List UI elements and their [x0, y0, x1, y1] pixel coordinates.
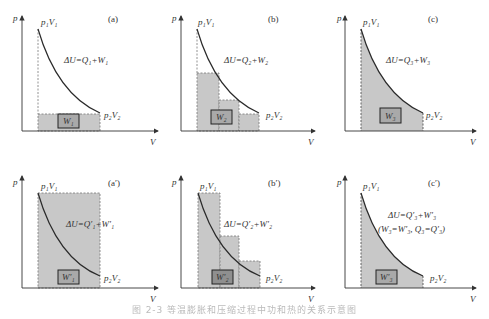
start-point-label: p₁V₁ — [199, 181, 216, 191]
start-point-label: p₁V₁ — [197, 17, 214, 27]
end-point-label: p₂V₂ — [425, 110, 442, 120]
start-point-label: p₁V₁ — [40, 181, 57, 191]
work-label: W′₂ — [216, 272, 229, 282]
end-point-label: p₂V₂ — [429, 273, 446, 283]
work-label: W₃ — [385, 111, 396, 121]
equation-note: (W₃=W′₃, Q₃=Q′₃) — [378, 224, 445, 234]
p-axis-label: p — [12, 177, 18, 187]
panel-tag: (a) — [108, 14, 118, 24]
panel-c — [345, 16, 476, 131]
end-point-label: p₂V₂ — [265, 110, 282, 120]
work-label: W₂ — [216, 112, 227, 122]
start-point-label: p₁V₁ — [362, 181, 379, 191]
panel-tag: (c′) — [428, 178, 440, 188]
equation: ΔU=Q′₃+W′₃ — [387, 210, 436, 220]
start-point-label: p₁V₁ — [40, 17, 57, 27]
p-axis-label: p — [336, 177, 342, 187]
end-point-label: p₂V₂ — [103, 110, 120, 120]
panel-tag: (b′) — [268, 178, 280, 188]
equation: ΔU=Q′₂+W′₂ — [223, 219, 272, 229]
pv-diagram-figure: p V p V p V p V p V p V p₁V₁ p₂V₂ p₁V₁ p… — [0, 0, 489, 319]
equation: ΔU=Q′₁+W′₁ — [65, 219, 114, 229]
v-axis-label: V — [308, 137, 315, 147]
work-label: W₁ — [63, 116, 74, 126]
work-label: W′₃ — [380, 272, 393, 282]
p-axis-label: p — [336, 13, 342, 23]
panel-tag: (b) — [268, 14, 279, 24]
p-axis-label: p — [171, 177, 177, 187]
panel-tag: (c) — [428, 14, 438, 24]
figure-caption: 图 2-3 等温膨胀和压缩过程中功和热的关系示意图 — [0, 303, 489, 316]
equation: ΔU=Q₃+W₃ — [385, 55, 430, 65]
end-point-label: p₂V₂ — [265, 273, 282, 283]
v-axis-label: V — [150, 137, 157, 147]
start-point-label: p₁V₁ — [362, 17, 379, 27]
v-axis-label: V — [470, 137, 477, 147]
panel-a — [22, 16, 158, 131]
equation: ΔU=Q₂+W₂ — [223, 55, 268, 65]
panel-tag: (a′) — [108, 178, 120, 188]
end-point-label: p₂V₂ — [103, 273, 120, 283]
isotherm-curve — [38, 29, 100, 113]
equation: ΔU=Q₁+W₁ — [63, 55, 108, 65]
panel-b-prime — [181, 176, 315, 288]
p-axis-label: p — [171, 13, 177, 23]
panel-b — [181, 16, 315, 131]
p-axis-label: p — [12, 13, 18, 23]
work-label: W′₁ — [62, 272, 75, 282]
panel-a-prime — [22, 176, 158, 288]
